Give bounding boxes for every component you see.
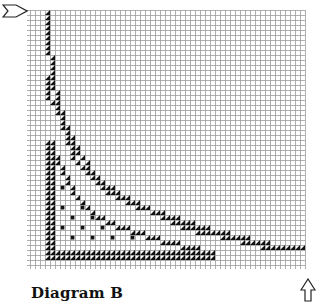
diagram-caption: Diagram B <box>31 284 123 302</box>
up-arrow-icon <box>300 278 316 302</box>
staircase-marks <box>45 10 305 260</box>
right-arrow-icon <box>2 4 28 18</box>
diagram-grid <box>0 0 321 307</box>
